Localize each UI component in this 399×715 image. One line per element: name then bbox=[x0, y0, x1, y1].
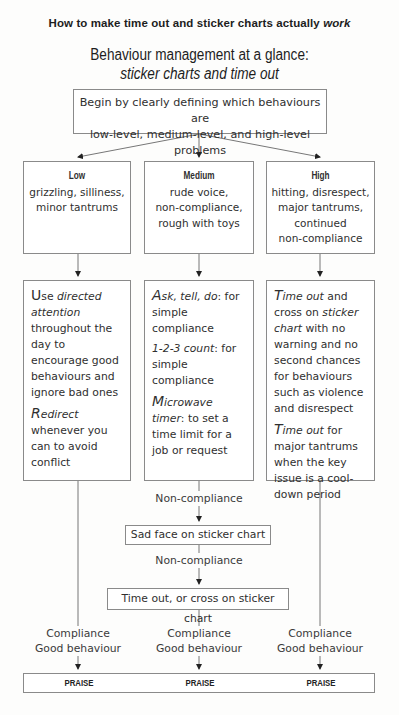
level-desc-line: rough with toys bbox=[145, 216, 253, 232]
compliance-label-medium: Compliance Good behaviour bbox=[154, 626, 244, 656]
noncompliance-label-2: Non-compliance bbox=[149, 553, 249, 568]
level-desc-line: grizzling, silliness, bbox=[24, 185, 130, 201]
emphasis: 1-2-3 count bbox=[152, 342, 214, 355]
praise-high: PRAISE bbox=[288, 677, 354, 688]
strategy-directed-attention: Use directed attention throughout the da… bbox=[31, 287, 124, 401]
level-heading-high: High bbox=[277, 168, 365, 184]
level-desc-line: non-compliance, bbox=[145, 200, 253, 216]
drop-cap: T bbox=[274, 287, 283, 303]
compliance-text: Compliance bbox=[33, 626, 123, 641]
text: with no warning and no second chances fo… bbox=[274, 322, 363, 415]
strategy-microwave-timer: Microwave timer: to set a time limit for… bbox=[152, 393, 247, 459]
strategy-time-out-tantrums: Time out for major tantrums when the key… bbox=[274, 421, 368, 503]
compliance-text: Compliance bbox=[275, 626, 365, 641]
level-box-medium: Medium rude voice, non-compliance, rough… bbox=[144, 161, 254, 254]
drop-cap: A bbox=[152, 287, 162, 303]
compliance-label-low: Compliance Good behaviour bbox=[33, 626, 123, 656]
level-desc-line: rude voice, bbox=[145, 185, 253, 201]
strategy-redirect: Redirect whenever you can to avoid confl… bbox=[31, 405, 124, 471]
compliance-text: Compliance bbox=[154, 626, 244, 641]
emphasis: ime out bbox=[283, 290, 324, 303]
emphasis: ime out bbox=[283, 424, 324, 437]
strategy-time-out-cross: Time out and cross on sticker chart with… bbox=[274, 287, 368, 417]
start-box: Begin by clearly defining which behaviou… bbox=[73, 89, 327, 134]
praise-low: PRAISE bbox=[46, 677, 112, 688]
level-desc-line: major tantrums, bbox=[267, 200, 374, 216]
good-behaviour-text: Good behaviour bbox=[275, 641, 365, 656]
noncompliance-label-1: Non-compliance bbox=[149, 491, 249, 506]
praise-medium: PRAISE bbox=[167, 677, 233, 688]
good-behaviour-text: Good behaviour bbox=[154, 641, 244, 656]
drop-cap: U bbox=[31, 287, 41, 303]
strategy-box-low: Use directed attention throughout the da… bbox=[23, 280, 131, 481]
timeout-box: Time out, or cross on sticker chart bbox=[107, 588, 289, 610]
text: se bbox=[41, 290, 57, 303]
strategy-123-count: 1-2-3 count: for simple compliance bbox=[152, 341, 247, 389]
drop-cap: M bbox=[152, 393, 164, 409]
strategy-box-high: Time out and cross on sticker chart with… bbox=[266, 280, 375, 481]
good-behaviour-text: Good behaviour bbox=[33, 641, 123, 656]
sad-face-box: Sad face on sticker chart bbox=[125, 525, 271, 545]
level-box-low: Low grizzling, silliness, minor tantrums bbox=[23, 161, 131, 254]
compliance-label-high: Compliance Good behaviour bbox=[275, 626, 365, 656]
strategy-ask-tell-do: Ask, tell, do: for simple compliance bbox=[152, 287, 247, 337]
level-box-high: High hitting, disrespect, major tantrums… bbox=[266, 161, 375, 254]
text: throughout the day to encourage good beh… bbox=[31, 322, 119, 399]
level-desc-line: hitting, disrespect, bbox=[267, 185, 374, 201]
praise-bar: PRAISE PRAISE PRAISE bbox=[23, 673, 375, 693]
start-box-line1: Begin by clearly defining which behaviou… bbox=[74, 95, 326, 127]
start-box-line2: low-level, medium-level, and high-level … bbox=[74, 127, 326, 159]
drop-cap: R bbox=[31, 405, 41, 421]
level-desc-line: continued bbox=[267, 216, 374, 232]
emphasis: edirect bbox=[41, 408, 79, 421]
text: whenever you can to avoid conflict bbox=[31, 424, 108, 469]
drop-cap: T bbox=[274, 421, 283, 437]
emphasis: sk, tell, do bbox=[162, 290, 218, 303]
strategy-box-medium: Ask, tell, do: for simple compliance 1-2… bbox=[144, 280, 254, 481]
level-heading-low: Low bbox=[34, 168, 121, 184]
level-heading-medium: Medium bbox=[155, 168, 244, 184]
level-desc-line: minor tantrums bbox=[24, 200, 130, 216]
level-desc-line: non-compliance bbox=[267, 231, 374, 247]
